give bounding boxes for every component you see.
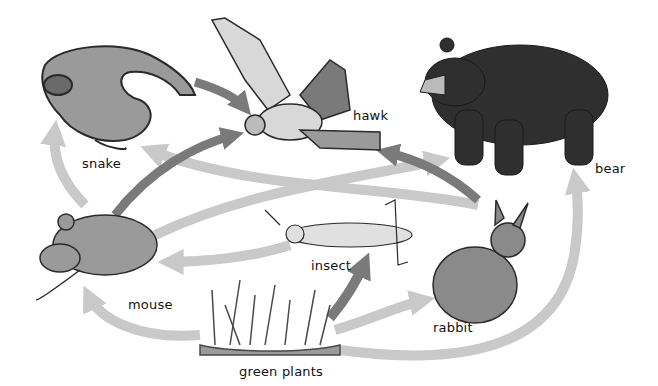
arrow-mouse-to-snake [54,130,85,205]
arrows-layer [0,0,658,386]
hawk-illustration [212,18,380,150]
food-web-diagram: snake hawk bear mouse insect rabbit gree… [0,0,658,386]
label-green-plants: green plants [239,364,323,379]
label-bear: bear [595,161,625,176]
label-hawk: hawk [353,108,388,123]
bear-illustration [420,38,608,175]
label-snake: snake [82,156,121,171]
label-insect: insect [311,258,351,273]
arrow-insect-to-mouse [168,245,290,262]
label-rabbit: rabbit [433,320,473,335]
arrow-snake-to-hawk [195,82,245,108]
label-mouse: mouse [128,297,173,312]
mouse-illustration [36,214,157,300]
rabbit-illustration [433,200,528,323]
green-plants-illustration [200,280,340,355]
insect-illustration [265,200,412,265]
snake-illustration [42,46,195,149]
arrow-plants-to-rabbit [335,300,425,330]
